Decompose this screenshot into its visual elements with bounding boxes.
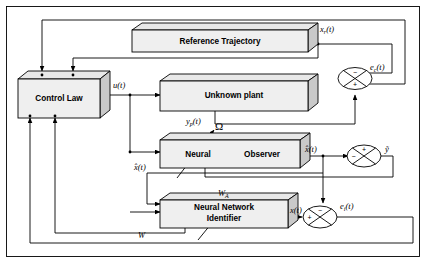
identification-junction-sign-top: − [318,207,322,214]
control-law-input-dot-1 [41,74,44,77]
signal-label-observer-weights: Ω [215,120,223,132]
control-law-input-dot-4 [54,115,57,118]
output-junction-sign-top: + [362,146,366,153]
block-label-control-law: Control Law [35,94,83,103]
signal-label-identifier-state: x̂(t) [133,162,146,172]
label-xr-arg: (t) [326,24,334,34]
svg-text:xr(t): xr(t) [319,24,334,35]
svg-text:ei(t): ei(t) [340,201,354,212]
block-neural-observer[interactable]: Neural Observer [160,133,310,168]
signal-label-identifier-weights-a: WA [218,188,229,199]
block-label-nn-identifier-line2: Identifier [207,214,242,223]
svg-text:ec(t): ec(t) [370,62,385,73]
tracking-junction-sign-bottom: + [353,81,357,88]
junction-dot-xhat [322,155,325,158]
identification-error-junction[interactable]: − + [303,206,337,228]
label-xhat-id-arg: (t) [138,162,146,172]
junction-dot-u2 [129,151,132,154]
block-control-law[interactable]: Control Law [18,71,110,118]
identification-junction-sign-left: + [307,214,311,221]
block-label-nn-identifier-line1: Neural Network [194,203,255,212]
block-unknown-plant[interactable]: Unknown plant [160,74,318,111]
diagram-canvas: Reference Trajectory Control Law Unknown… [0,0,426,263]
output-error-junction[interactable]: + − [347,145,381,167]
svg-text:u(t): u(t) [113,80,125,90]
label-u-arg: (t) [117,80,125,90]
control-law-input-dot-2 [72,74,75,77]
block-label-reference-trajectory: Reference Trajectory [179,37,260,46]
tracking-junction-sign-top: − [353,69,357,76]
label-wa-sub: A [224,193,229,199]
block-label-unknown-plant: Unknown plant [205,91,264,100]
svg-text:WA: WA [218,188,229,199]
label-ytilde: ỹ [384,144,389,154]
svg-text:x(t): x(t) [289,205,302,215]
tracking-error-junction[interactable]: − + [338,68,372,90]
output-junction-sign-left: − [351,153,355,160]
block-nn-identifier[interactable]: Neural Network Identifier [160,193,298,228]
signal-label-output-error: ỹ [384,144,389,154]
signal-label-plant-output: yp(t) [185,116,201,127]
label-ei-arg: (t) [345,201,353,211]
signal-label-identifier-weights: W [138,230,146,240]
signal-label-identification-error: ei(t) [340,201,354,212]
svg-text:x̂(t): x̂(t) [133,162,146,172]
wire-u-to-neural-observer [130,95,160,152]
block-label-observer: Observer [244,150,281,159]
svg-text:x̂(t): x̂(t) [304,144,317,154]
signal-label-identifier-output: x(t) [289,205,302,215]
label-yp-arg: (t) [193,116,201,126]
signal-label-tracking-error: ec(t) [370,62,385,73]
label-x-arg: (t) [294,205,302,215]
wire-xhat-to-identifier-input [147,173,160,204]
control-law-input-dot-3 [29,115,32,118]
svg-text:yp(t): yp(t) [185,116,201,127]
signal-label-reference-state: xr(t) [319,24,334,35]
signal-label-control-input: u(t) [113,80,125,90]
block-reference-trajectory[interactable]: Reference Trajectory [132,23,318,52]
label-omega: Ω [215,120,223,132]
signal-label-observer-state: x̂(t) [304,144,317,154]
label-w: W [138,230,146,240]
label-xhat-obs-arg: (t) [309,144,317,154]
label-ec-arg: (t) [376,62,384,72]
block-label-neural: Neural [185,150,210,159]
control-system-block-diagram: Reference Trajectory Control Law Unknown… [0,0,426,263]
junction-dot-u [129,94,132,97]
